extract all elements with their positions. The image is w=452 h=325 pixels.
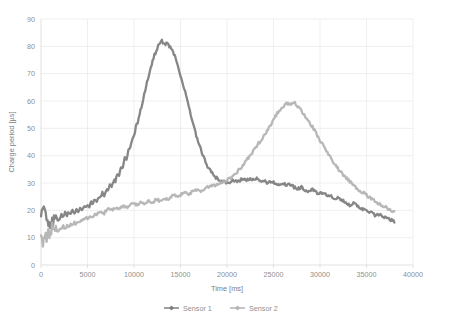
y-tick-label: 60 [27,97,35,106]
x-axis-title: Time [ms] [211,284,243,293]
x-tick-label: 35000 [357,270,377,279]
legend-label-2[interactable]: Sensor 2 [249,304,278,313]
y-tick-label: 50 [27,124,35,133]
x-tick-label: 30000 [310,270,330,279]
x-tick-label: 40000 [403,270,423,279]
y-tick-label: 30 [27,179,35,188]
x-tick-label: 5000 [80,270,96,279]
x-tick-label: 10000 [124,270,144,279]
y-tick-label: 90 [27,15,35,24]
y-tick-label: 70 [27,69,35,78]
x-tick-label: 15000 [171,270,191,279]
legend-label-1[interactable]: Sensor 1 [183,304,212,313]
line-chart: 0102030405060708090050001000015000200002… [0,0,452,325]
y-tick-label: 80 [27,42,35,51]
x-tick-label: 0 [39,270,43,279]
y-axis-title: Charge period [µs] [7,112,16,173]
x-tick-label: 20000 [217,270,237,279]
x-tick-label: 25000 [264,270,284,279]
y-tick-label: 20 [27,206,35,215]
y-tick-label: 10 [27,233,35,242]
y-tick-label: 0 [31,261,35,270]
chart-container: 0102030405060708090050001000015000200002… [0,0,452,325]
y-tick-label: 40 [27,151,35,160]
